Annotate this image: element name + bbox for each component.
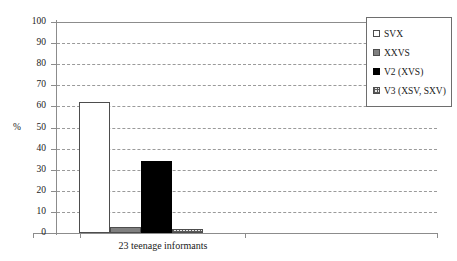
x-axis-tick-2 (245, 233, 246, 238)
y-tick-0 (51, 233, 57, 234)
y-tick-label-0: 0 (16, 228, 46, 238)
y-tick-label-70: 70 (16, 80, 46, 90)
y-tick-label-40: 40 (16, 144, 46, 154)
y-axis-unit-label: % (13, 123, 21, 133)
legend-label-svx: SVX (384, 29, 403, 39)
y-tick-label-80: 80 (16, 59, 46, 69)
x-axis-line (33, 233, 437, 234)
y-tick-label-30: 30 (16, 165, 46, 175)
legend-swatch-v2 (373, 68, 380, 75)
x-axis-tick-1 (80, 233, 81, 238)
bar-v2-xvs (141, 161, 172, 233)
x-axis-tick-end (437, 233, 438, 238)
y-tick-label-10: 10 (16, 207, 46, 217)
legend-swatch-svx (373, 30, 380, 37)
x-axis-tick-start (33, 233, 34, 238)
chart-legend: SVX XXVS V2 (XVS) V3 (XSV, SXV) (366, 17, 452, 107)
legend-item-svx: SVX (373, 24, 447, 43)
y-tick-label-100: 100 (16, 17, 46, 27)
y-tick-label-20: 20 (16, 186, 46, 196)
y-tick-label-60: 60 (16, 101, 46, 111)
legend-label-xxvs: XXVS (384, 48, 410, 58)
legend-label-v3: V3 (XSV, SXV) (384, 86, 446, 96)
legend-label-v2: V2 (XVS) (384, 67, 423, 77)
legend-item-v2: V2 (XVS) (373, 62, 447, 81)
x-axis-category-label: 23 teenage informants (68, 240, 258, 251)
bar-xxvs (110, 227, 141, 233)
legend-item-v3: V3 (XSV, SXV) (373, 81, 447, 100)
y-tick-label-90: 90 (16, 38, 46, 48)
legend-swatch-v3 (373, 87, 380, 94)
legend-item-xxvs: XXVS (373, 43, 447, 62)
bar-v3-xsv-sxv (172, 229, 203, 233)
bar-svx (79, 102, 110, 233)
legend-swatch-xxvs (373, 49, 380, 56)
bar-chart: 1009080706050403020100 % 23 teenage info… (0, 0, 457, 261)
